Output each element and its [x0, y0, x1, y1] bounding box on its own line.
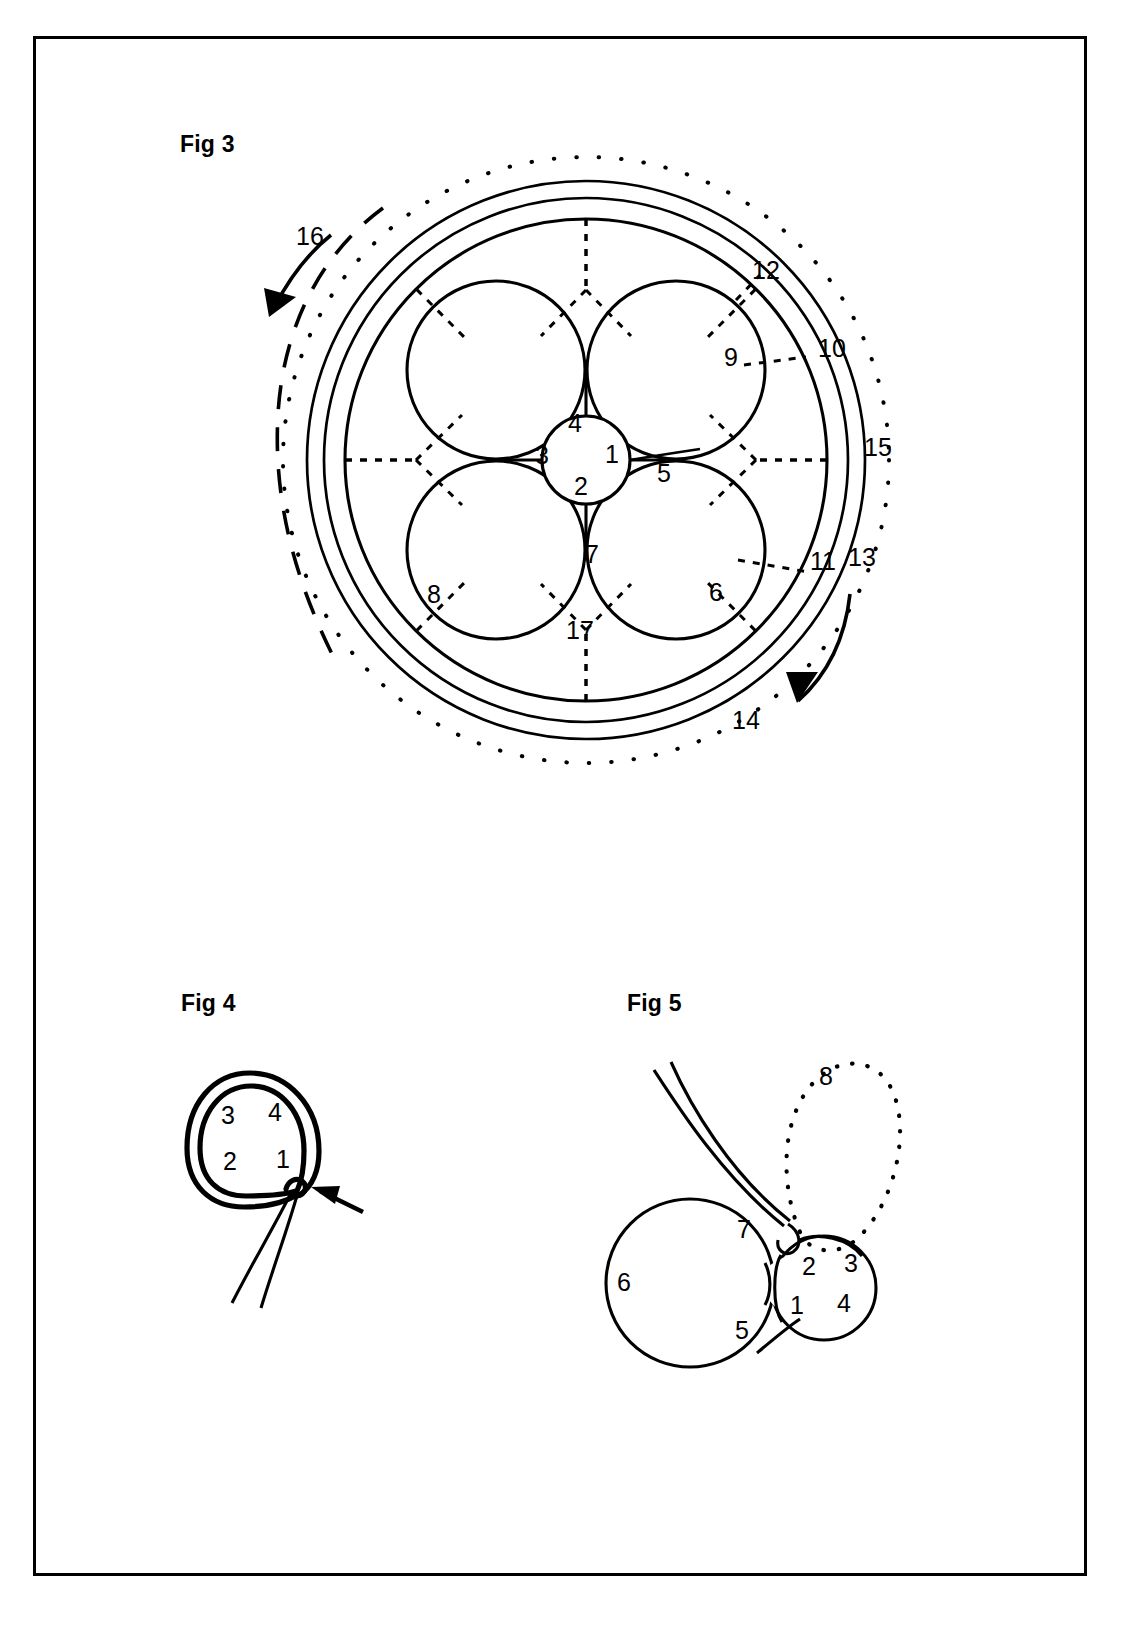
fig3-caption: Fig 3	[180, 131, 235, 158]
fig4-caption: Fig 4	[181, 990, 236, 1017]
fig5-caption: Fig 5	[627, 990, 682, 1017]
patent-drawing-page: Fig 3 Fig 4 Fig 5	[0, 0, 1123, 1628]
sheet-border	[33, 36, 1087, 1576]
